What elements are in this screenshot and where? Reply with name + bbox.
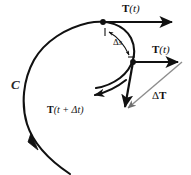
delta-s-label: Δs <box>113 38 122 47</box>
vector-diagram-canvas <box>0 0 191 175</box>
tangent-mid-label-arg: (t) <box>159 43 169 55</box>
delta-s-label-var: s <box>119 37 123 47</box>
delta-T-label-symbol: T <box>159 89 166 101</box>
tangent-next-label-arg: (t + Δt) <box>54 104 84 115</box>
delta-T-label: ΔT <box>152 90 166 101</box>
tangent-next-label: T(t + Δt) <box>47 105 84 115</box>
curve-label-c: C <box>11 78 20 91</box>
tangent-top-label-arg: (t) <box>129 2 139 14</box>
tangent-top-label: T(t) <box>122 3 140 14</box>
delta-T-vector-arrow <box>128 62 182 108</box>
figure-container: C T(t) T(t) T(t + Δt) ΔT Δs <box>0 0 191 175</box>
tangent-next-label-symbol: T <box>47 104 54 115</box>
tangent-mid-label: T(t) <box>152 44 170 55</box>
